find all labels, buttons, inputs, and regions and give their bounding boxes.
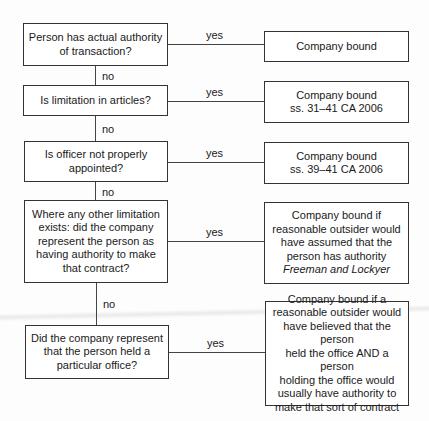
yes-label-4: yes bbox=[206, 226, 223, 238]
yes-label-5: yes bbox=[207, 337, 224, 349]
yes-label-2: yes bbox=[206, 86, 223, 98]
question-line: Did the company represent bbox=[31, 332, 163, 346]
question-box-particular-office: Did the company represent that the perso… bbox=[25, 325, 169, 379]
outcome-line: person has authority bbox=[272, 250, 400, 264]
question-box-actual-authority: Person has actual authority of transacti… bbox=[23, 23, 168, 66]
outcome-line: Company bound bbox=[296, 40, 377, 54]
question-line: exists: did the company bbox=[32, 221, 160, 235]
yes-label-3: yes bbox=[206, 147, 223, 159]
outcome-line: reasonable outsider would bbox=[270, 306, 404, 320]
connector-q3-q4 bbox=[95, 181, 96, 200]
question-line: Where any other limitation bbox=[32, 208, 160, 222]
question-line: having authority to make bbox=[32, 248, 160, 262]
connector-q4-q5 bbox=[96, 282, 97, 325]
outcome-line: Company bound if a bbox=[270, 293, 404, 307]
outcome-line: Company bound bbox=[290, 89, 383, 103]
connector-q2-q3 bbox=[95, 115, 96, 141]
connector-yes-5 bbox=[168, 352, 265, 353]
no-label-4: no bbox=[103, 298, 115, 310]
question-line: Is limitation in articles? bbox=[40, 94, 151, 108]
outcome-line: have believed that the person bbox=[270, 320, 404, 347]
outcome-line: usually have authority to bbox=[270, 387, 404, 401]
question-line: Is officer not properly bbox=[45, 148, 148, 162]
outcome-box-freeman-lockyer: Company bound if reasonable outsider wou… bbox=[264, 202, 409, 284]
outcome-line: holding the office would bbox=[270, 374, 404, 388]
question-box-officer-appointed: Is officer not properly appointed? bbox=[24, 141, 168, 182]
question-line: appointed? bbox=[45, 162, 148, 176]
outcome-box-company-bound: Company bound bbox=[264, 31, 409, 62]
flowchart-canvas: no no no no yes yes yes yes yes Person h… bbox=[0, 0, 429, 421]
connector-yes-2 bbox=[167, 101, 264, 102]
question-line: of transaction? bbox=[29, 45, 162, 59]
yes-label-1: yes bbox=[206, 29, 223, 41]
outcome-line: ss. 31–41 CA 2006 bbox=[290, 102, 383, 116]
connector-yes-1 bbox=[167, 44, 264, 45]
question-line: Person has actual authority bbox=[29, 31, 162, 45]
outcome-line: have assumed that the bbox=[272, 236, 400, 250]
no-label-2: no bbox=[102, 123, 114, 135]
outcome-line: make that sort of contract bbox=[270, 401, 404, 415]
question-line: that contract? bbox=[32, 262, 160, 276]
outcome-box-apparent-office: Company bound if a reasonable outsider w… bbox=[265, 301, 409, 406]
outcome-line: held the office AND a person bbox=[270, 347, 404, 374]
connector-yes-3 bbox=[167, 162, 264, 163]
no-label-1: no bbox=[102, 70, 114, 82]
outcome-line: reasonable outsider would bbox=[272, 223, 400, 237]
question-line: particular office? bbox=[31, 359, 163, 373]
question-box-limitation-articles: Is limitation in articles? bbox=[23, 85, 168, 116]
case-citation: Freeman and Lockyer bbox=[272, 263, 400, 277]
outcome-line: ss. 39–41 CA 2006 bbox=[290, 163, 383, 177]
outcome-line: Company bound bbox=[290, 150, 383, 164]
no-label-3: no bbox=[102, 186, 114, 198]
connector-yes-4 bbox=[167, 241, 264, 242]
connector-q1-q2 bbox=[95, 65, 96, 85]
outcome-box-ss31-41: Company bound ss. 31–41 CA 2006 bbox=[264, 81, 409, 123]
outcome-line: Company bound if bbox=[272, 209, 400, 223]
question-box-other-limitation: Where any other limitation exists: did t… bbox=[24, 200, 168, 283]
question-line: represent the person as bbox=[32, 235, 160, 249]
question-line: that the person held a bbox=[31, 345, 163, 359]
outcome-box-ss39-41: Company bound ss. 39–41 CA 2006 bbox=[264, 142, 409, 184]
